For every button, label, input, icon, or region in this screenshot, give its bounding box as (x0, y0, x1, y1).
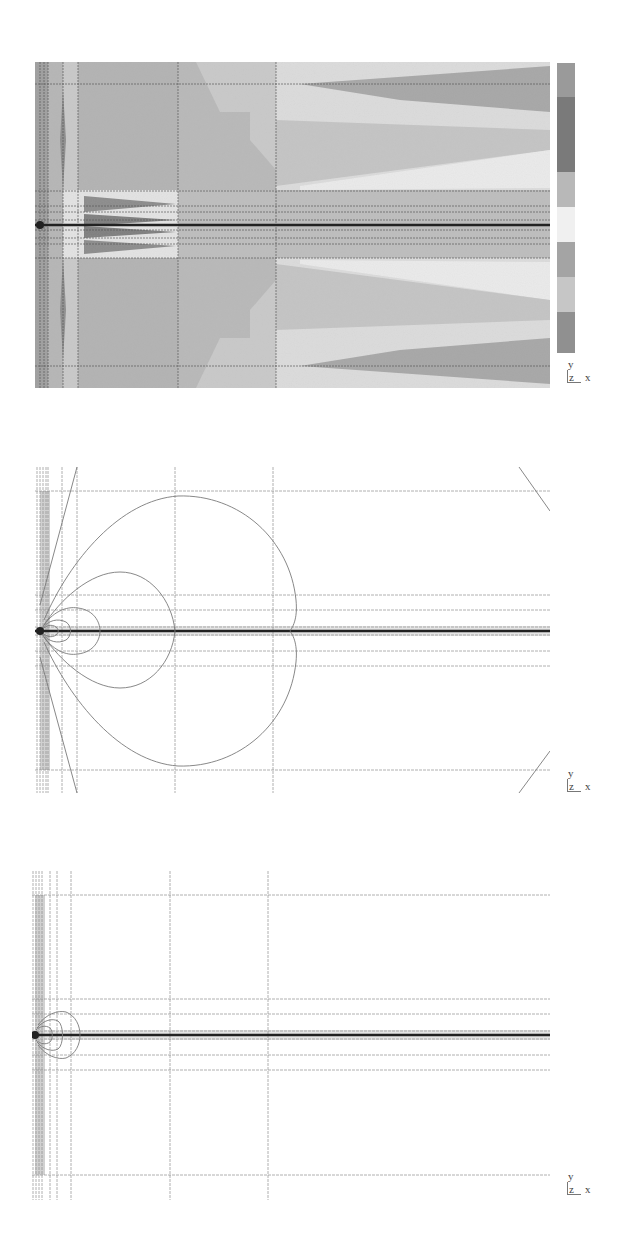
plot-area (31, 871, 556, 1200)
axis-label-y: y (568, 1171, 574, 1182)
axis-label-z: z (569, 1184, 574, 1195)
axis-triad: yzx (566, 1172, 596, 1200)
panel-canvas (0, 0, 620, 1260)
axis-label-x: x (585, 1184, 591, 1195)
source-point (31, 1031, 39, 1039)
axis-triad-y-stem (567, 1182, 568, 1194)
